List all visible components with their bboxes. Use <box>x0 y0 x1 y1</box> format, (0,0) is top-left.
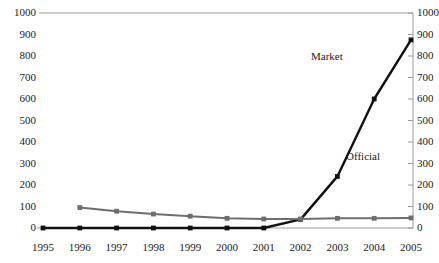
data-point-official-1 <box>114 209 119 214</box>
data-point-official-7 <box>335 216 340 221</box>
series-official <box>77 205 413 221</box>
data-point-official-2 <box>151 212 156 217</box>
data-point-official-6 <box>298 217 303 222</box>
series-layer <box>41 37 414 230</box>
axis-lines <box>37 13 413 228</box>
series-annotation-market: Market <box>311 50 343 62</box>
data-point-official-3 <box>188 214 193 219</box>
series-annotation-official: Official <box>346 150 380 162</box>
data-point-market-2 <box>114 226 119 231</box>
data-point-market-10 <box>409 37 414 42</box>
data-point-market-1 <box>77 226 82 231</box>
series-line-market <box>43 40 411 228</box>
data-point-official-5 <box>261 217 266 222</box>
series-market <box>41 37 414 230</box>
data-point-market-0 <box>41 226 46 231</box>
data-point-official-8 <box>372 216 377 221</box>
data-point-market-6 <box>261 226 266 231</box>
data-point-official-4 <box>225 216 230 221</box>
data-point-official-9 <box>409 216 414 221</box>
data-point-market-5 <box>225 226 230 231</box>
data-point-market-4 <box>188 226 193 231</box>
data-point-market-9 <box>372 97 377 102</box>
data-point-market-3 <box>151 226 156 231</box>
data-point-official-0 <box>77 205 82 210</box>
data-point-market-8 <box>335 174 340 179</box>
series-line-official <box>80 208 411 219</box>
